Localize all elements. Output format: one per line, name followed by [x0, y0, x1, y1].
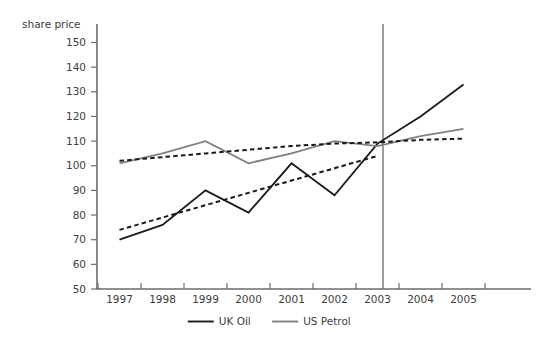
series-uk-oil — [120, 84, 464, 239]
y-tick-label: 140 — [66, 61, 86, 73]
series-uk-oil-trend — [120, 156, 378, 230]
chart-canvas: share price 1501401301201101009080706050… — [0, 0, 545, 347]
y-tick-label: 150 — [66, 36, 86, 48]
x-tick-label: 2004 — [407, 293, 434, 305]
y-tick-label: 130 — [66, 85, 86, 97]
share-price-line-chart: share price 1501401301201101009080706050… — [0, 0, 545, 347]
x-tick-label: 2003 — [364, 293, 391, 305]
x-tick-label: 2002 — [321, 293, 348, 305]
series-us-petrol-trend — [120, 139, 464, 161]
x-axis-ticks: 199719981999200020012002200320042005 — [98, 283, 485, 305]
y-tick-label: 120 — [66, 110, 86, 122]
legend-label-us-petrol: US Petrol — [303, 315, 351, 327]
y-tick-label: 50 — [73, 283, 86, 295]
x-tick-label: 1998 — [149, 293, 176, 305]
x-tick-label: 2001 — [278, 293, 305, 305]
x-tick-label: 1997 — [106, 293, 133, 305]
y-tick-label: 90 — [73, 184, 86, 196]
x-tick-label: 1999 — [192, 293, 219, 305]
y-tick-label: 60 — [73, 258, 86, 270]
y-tick-label: 70 — [73, 233, 86, 245]
x-tick-label: 2000 — [235, 293, 262, 305]
y-axis-ticks: 1501401301201101009080706050 — [66, 36, 97, 295]
chart-legend: UK OilUS Petrol — [188, 315, 351, 327]
y-tick-label: 100 — [66, 159, 86, 171]
y-tick-label: 110 — [66, 135, 86, 147]
legend-label-uk-oil: UK Oil — [219, 315, 251, 327]
y-axis-title: share price — [22, 18, 81, 30]
series-group — [120, 84, 464, 239]
x-tick-label: 2005 — [450, 293, 477, 305]
y-tick-label: 80 — [73, 209, 86, 221]
